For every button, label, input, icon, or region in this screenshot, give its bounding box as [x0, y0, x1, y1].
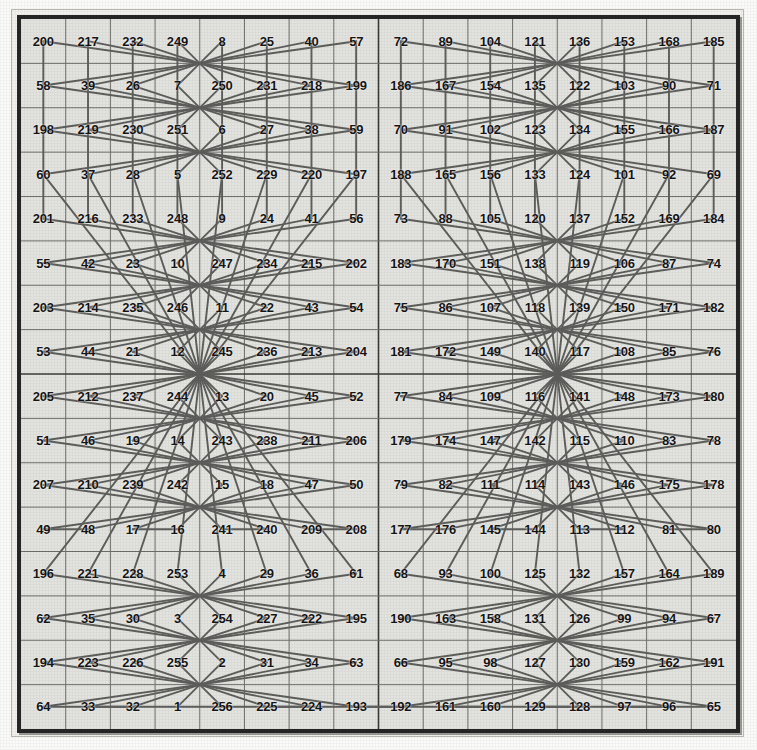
cell-value: 213	[301, 345, 322, 358]
grid-cell: 9	[200, 197, 245, 241]
grid-cell: 82	[423, 463, 468, 507]
cell-value: 118	[525, 301, 545, 314]
grid-cell: 249	[155, 19, 200, 63]
cell-value: 97	[617, 700, 631, 713]
cell-value: 26	[126, 79, 140, 92]
cell-value: 109	[480, 390, 501, 403]
cell-value: 116	[525, 390, 545, 403]
grid-cell: 132	[557, 552, 602, 596]
cell-value: 147	[480, 434, 501, 447]
cell-value: 187	[703, 123, 724, 136]
grid-cell: 71	[691, 63, 736, 107]
cell-value: 194	[33, 656, 54, 669]
grid-cell: 102	[468, 108, 513, 152]
grid-cell: 250	[200, 63, 245, 107]
cell-value: 248	[167, 212, 188, 225]
grid-cell: 145	[468, 507, 513, 551]
cell-value: 138	[524, 257, 545, 270]
cell-value: 247	[212, 257, 233, 270]
grid-cell: 1	[155, 685, 200, 729]
cell-value: 211	[301, 434, 321, 447]
cell-value: 236	[256, 345, 277, 358]
grid-cell: 164	[647, 552, 692, 596]
grid-cell: 26	[110, 63, 155, 107]
grid-cell: 203	[21, 285, 66, 329]
cell-value: 104	[480, 35, 501, 48]
cell-value: 177	[390, 523, 411, 536]
grid-cell: 160	[468, 685, 513, 729]
grid-cell: 90	[647, 63, 692, 107]
cell-value: 150	[614, 301, 635, 314]
grid-cell: 180	[691, 374, 736, 418]
grid-cell: 221	[66, 552, 111, 596]
cell-value: 136	[569, 35, 590, 48]
grid-cell: 245	[200, 330, 245, 374]
cell-value: 129	[524, 700, 545, 713]
cell-value: 34	[304, 656, 318, 669]
grid-cell: 201	[21, 197, 66, 241]
cell-value: 246	[167, 301, 188, 314]
grid-cell: 216	[66, 197, 111, 241]
grid-cell: 48	[66, 507, 111, 551]
grid-cell: 93	[423, 552, 468, 596]
cell-value: 256	[212, 700, 233, 713]
cell-value: 132	[569, 567, 590, 580]
cell-value: 239	[122, 478, 143, 491]
grid-cell: 144	[513, 507, 558, 551]
grid-cell: 74	[691, 241, 736, 285]
grid-cell: 94	[647, 596, 692, 640]
cell-value: 48	[81, 523, 95, 536]
grid-cell: 185	[691, 19, 736, 63]
cell-value: 29	[260, 567, 274, 580]
grid-cell: 89	[423, 19, 468, 63]
cell-value: 152	[614, 212, 635, 225]
cell-value: 44	[81, 345, 95, 358]
cell-value: 235	[122, 301, 143, 314]
figure-page: 2002172322498254057728910412113615316818…	[0, 0, 757, 750]
cell-value: 197	[346, 168, 367, 181]
cell-value: 204	[346, 345, 367, 358]
grid-cell: 2	[200, 640, 245, 684]
cell-value: 242	[167, 478, 188, 491]
cell-value: 149	[480, 345, 501, 358]
grid-cell: 101	[602, 152, 647, 196]
grid-cell: 40	[289, 19, 334, 63]
cell-value: 23	[126, 257, 140, 270]
grid-cell: 58	[21, 63, 66, 107]
grid-cell: 165	[423, 152, 468, 196]
grid-cell: 225	[244, 685, 289, 729]
cell-value: 47	[304, 478, 318, 491]
grid-cell: 254	[200, 596, 245, 640]
grid-cell: 110	[602, 418, 647, 462]
grid-cell: 20	[244, 374, 289, 418]
grid-cell: 234	[244, 241, 289, 285]
cell-value: 17	[126, 523, 140, 536]
cell-value: 59	[349, 123, 363, 136]
cell-value: 108	[614, 345, 635, 358]
cell-value: 115	[569, 434, 589, 447]
grid-cell: 106	[602, 241, 647, 285]
grid-cell: 76	[691, 330, 736, 374]
grid-cell: 38	[289, 108, 334, 152]
grid-cell: 33	[66, 685, 111, 729]
cell-value: 55	[36, 257, 50, 270]
grid-cell: 217	[66, 19, 111, 63]
cell-value: 207	[33, 478, 54, 491]
grid-cell: 171	[647, 285, 692, 329]
cell-value: 217	[77, 35, 98, 48]
cell-value: 22	[260, 301, 274, 314]
cell-value: 208	[346, 523, 367, 536]
grid-cell: 215	[289, 241, 334, 285]
cell-value: 19	[126, 434, 140, 447]
grid-cell: 153	[602, 19, 647, 63]
grid-cell: 81	[647, 507, 692, 551]
cell-value: 12	[170, 345, 184, 358]
grid-cell: 247	[200, 241, 245, 285]
grid-cell: 200	[21, 19, 66, 63]
cell-value: 188	[390, 168, 411, 181]
grid-cell: 85	[647, 330, 692, 374]
grid-cell: 175	[647, 463, 692, 507]
grid-cell: 3	[155, 596, 200, 640]
grid-cell: 178	[691, 463, 736, 507]
cell-value: 119	[569, 257, 589, 270]
